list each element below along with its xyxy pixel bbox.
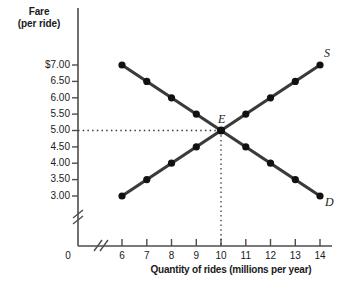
x-tick-label: 6 <box>112 250 132 261</box>
y-tick-label: $7.00 <box>22 59 70 70</box>
origin-label: 0 <box>58 250 78 261</box>
y-axis-ticks <box>72 65 78 196</box>
x-tick-label: 11 <box>236 250 256 261</box>
x-tick-label: 8 <box>162 250 182 261</box>
data-point <box>292 176 299 183</box>
supply-demand-chart: Fare (per ride) <box>0 0 342 284</box>
y-tick-label: 5.50 <box>22 108 70 119</box>
y-tick-label: 5.00 <box>22 124 70 135</box>
data-point <box>193 111 200 118</box>
data-point <box>242 143 249 150</box>
data-point <box>168 94 175 101</box>
data-point <box>267 94 274 101</box>
data-point <box>292 78 299 85</box>
x-tick-label: 12 <box>261 250 281 261</box>
data-point <box>242 111 249 118</box>
x-tick-label: 9 <box>186 250 206 261</box>
data-point <box>143 176 150 183</box>
x-tick-label: 14 <box>310 250 330 261</box>
data-point <box>316 61 323 68</box>
data-point <box>118 192 125 199</box>
y-tick-label: 4.00 <box>22 157 70 168</box>
y-tick-label: 3.00 <box>22 190 70 201</box>
equilibrium-marker <box>217 127 225 135</box>
y-tick-label: 4.50 <box>22 141 70 152</box>
x-tick-label: 13 <box>285 250 305 261</box>
x-tick-label: 7 <box>137 250 157 261</box>
y-tick-label: 3.50 <box>22 173 70 184</box>
data-point <box>316 192 323 199</box>
y-tick-label: 6.50 <box>22 75 70 86</box>
data-point <box>143 78 150 85</box>
demand-curve-label: D <box>325 195 334 210</box>
supply-curve-label: S <box>324 46 330 61</box>
data-point <box>168 160 175 167</box>
x-tick-label: 10 <box>211 250 231 261</box>
data-point <box>193 143 200 150</box>
equilibrium-label: E <box>218 112 225 127</box>
data-point <box>267 160 274 167</box>
y-tick-label: 6.00 <box>22 92 70 103</box>
x-axis-title: Quantity of rides (millions per year) <box>120 264 342 275</box>
data-point <box>118 61 125 68</box>
